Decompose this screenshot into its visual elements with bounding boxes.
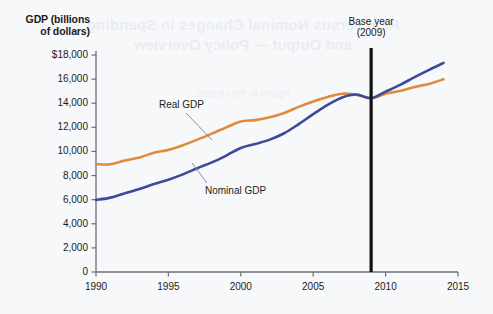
y-tick-label: 10,000 [32, 145, 88, 156]
real-gdp-leader-line [186, 113, 212, 140]
y-tick-label: 16,000 [32, 73, 88, 84]
real-gdp-line [96, 79, 444, 164]
axis-ticks [92, 55, 459, 277]
x-tick-label: 1990 [71, 281, 121, 292]
y-tick-label: $18,000 [32, 49, 88, 60]
x-tick-label: 2010 [361, 281, 411, 292]
y-tick-label: 6,000 [32, 194, 88, 205]
y-tick-label: 12,000 [32, 121, 88, 132]
x-tick-label: 2005 [288, 281, 338, 292]
x-tick-label: 2000 [216, 281, 266, 292]
x-tick-label: 2015 [433, 281, 483, 292]
y-tick-label: 4,000 [32, 218, 88, 229]
gdp-chart-figure: Real versus Nominal Changes in Spending … [0, 0, 493, 314]
x-tick-label: 1995 [143, 281, 193, 292]
y-tick-label: 8,000 [32, 170, 88, 181]
y-tick-label: 14,000 [32, 97, 88, 108]
y-tick-label: 2,000 [32, 242, 88, 253]
y-tick-label: 0 [32, 266, 88, 277]
nominal-gdp-line [96, 63, 444, 200]
